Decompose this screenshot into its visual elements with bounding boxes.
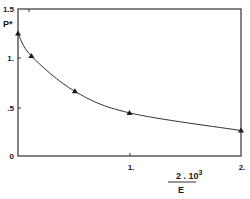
chart-canvas: 1.5 1. .5 0 1. 2. P* 2 . 103 E xyxy=(0,0,250,199)
x-axis-label-numerator: 2 . 103 xyxy=(176,169,203,181)
x-tick-label-1: 1. xyxy=(128,163,135,172)
triangle-marker-icon xyxy=(72,88,78,93)
triangle-marker-icon xyxy=(15,31,21,36)
y-tick-label-1: 1. xyxy=(7,54,14,63)
plot-frame xyxy=(18,9,241,156)
y-tick-label-05: .5 xyxy=(7,104,14,113)
data-markers xyxy=(15,31,244,133)
y-axis-label: P* xyxy=(3,19,13,29)
x-axis-label-denominator: E xyxy=(178,185,184,195)
x-tick-label-2: 2. xyxy=(239,163,246,172)
y-tick-label-15: 1.5 xyxy=(3,5,15,14)
data-curve xyxy=(18,34,241,131)
y-tick-label-0: 0 xyxy=(10,152,15,161)
